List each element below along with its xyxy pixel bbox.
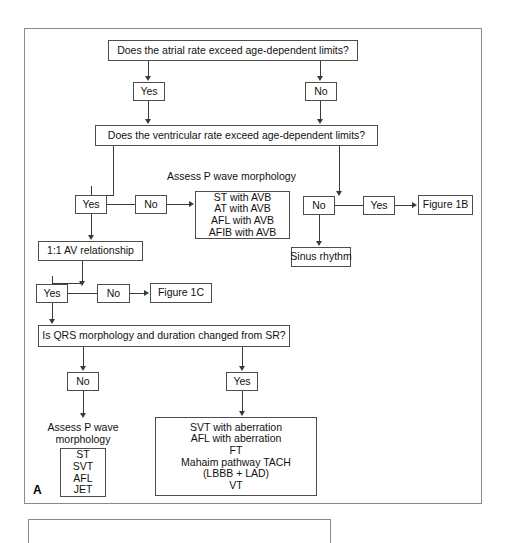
connector-right-no-to-sinus <box>319 215 320 242</box>
avb-list-item-3: AFIB with AVB <box>209 227 277 239</box>
node-qrs-question-label: Is QRS morphology and duration changed f… <box>42 330 285 342</box>
narrow-qrs-item-1: SVT <box>73 461 93 473</box>
node-qrs-yes: Yes <box>226 372 258 391</box>
arrowhead-qrs-yes-to-wide <box>239 411 245 416</box>
arrowhead-qrs-to-no <box>80 366 86 371</box>
node-ventricular-yes: Yes <box>75 195 107 214</box>
arrowhead-qrs-no-to-narrow <box>80 413 86 418</box>
connector-av-no-to-fig1c <box>130 293 145 294</box>
narrow-qrs-item-3: JET <box>74 484 93 496</box>
panel-letter-a: A <box>33 483 42 497</box>
connector-qrs-to-no <box>83 347 84 367</box>
node-figure-1c-label: Figure 1C <box>158 287 204 299</box>
connector-ventricular-right-stem <box>339 146 340 192</box>
connector-vent-yes-to-no <box>107 204 135 205</box>
caption-assess-p-wave-top: Assess P wave morphology <box>154 170 309 182</box>
node-qrs-no: No <box>67 372 99 391</box>
node-right-no-label: No <box>312 200 325 212</box>
node-av-yes-label: Yes <box>43 288 60 300</box>
node-atrial-yes: Yes <box>133 82 165 101</box>
caption-assess-p-wave-bottom-line1: Assess P wave <box>22 421 144 433</box>
connector-right-yes-to-fig1b <box>395 205 413 206</box>
connector-qrs-yes-to-wide <box>242 391 243 412</box>
node-narrow-qrs-list: ST SVT AFL JET <box>60 448 106 497</box>
node-qrs-question: Is QRS morphology and duration changed f… <box>38 325 290 347</box>
connector-no-to-ventricular <box>320 101 321 120</box>
wide-qrs-item-5: VT <box>229 480 242 492</box>
node-figure-1b: Figure 1B <box>418 195 473 215</box>
caption-assess-p-wave-bottom-line2: morphology <box>22 433 144 445</box>
connector-av-yes-to-no <box>68 293 98 294</box>
arrowhead-vent-no-to-avb <box>189 201 194 207</box>
figure-panel-b-partial <box>28 519 331 543</box>
node-atrial-rate-question-label: Does the atrial rate exceed age-dependen… <box>117 45 349 57</box>
connector-right-no-to-yes <box>335 205 363 206</box>
arrowhead-no-to-ventricular <box>317 119 323 124</box>
arrowhead-av-stem <box>79 281 85 286</box>
node-av-relationship: 1:1 AV relationship <box>38 241 143 261</box>
node-ventricular-rate-question-label: Does the ventricular rate exceed age-dep… <box>108 130 365 142</box>
node-figure-1b-label: Figure 1B <box>423 199 469 211</box>
connector-qrs-to-yes <box>242 347 243 367</box>
arrowhead-atrial-to-yes <box>145 76 151 81</box>
node-wide-qrs-list: SVT with aberration AFL with aberration … <box>155 417 317 496</box>
node-ventricular-no: No <box>135 195 167 214</box>
connector-qrs-no-to-narrow <box>83 391 84 414</box>
node-sinus-rhythm: Sinus rhythm <box>291 247 351 267</box>
arrowhead-atrial-to-no <box>317 76 323 81</box>
node-atrial-no: No <box>305 82 337 101</box>
wide-qrs-item-4: (LBBB + LAD) <box>203 468 269 480</box>
connector-atrial-to-no <box>320 61 321 77</box>
node-av-relationship-label: 1:1 AV relationship <box>47 245 134 257</box>
arrowhead-right-no-to-sinus <box>316 241 322 246</box>
node-ventricular-rate-question: Does the ventricular rate exceed age-dep… <box>95 125 378 146</box>
arrowhead-yes-to-ventricular <box>145 119 151 124</box>
connector-yes-to-ventricular <box>148 101 149 120</box>
avb-list-item-2: AFL with AVB <box>211 215 274 227</box>
connector-av-to-yes <box>52 276 53 284</box>
node-qrs-no-label: No <box>76 376 89 388</box>
arrowhead-yes-to-av-relationship <box>88 235 94 240</box>
node-right-no: No <box>303 196 335 215</box>
connector-atrial-to-yes <box>148 61 149 77</box>
node-avb-list: ST with AVB AT with AVB AFL with AVB AFI… <box>195 191 290 239</box>
arrowhead-av-no-to-fig1c <box>144 290 149 296</box>
connector-av-yes-to-qrs <box>52 303 53 320</box>
connector-vent-no-to-avb <box>167 204 190 205</box>
arrowhead-right-yes-to-fig1b <box>412 202 417 208</box>
node-ventricular-yes-label: Yes <box>82 199 99 211</box>
node-qrs-yes-label: Yes <box>233 376 250 388</box>
connector-yes-to-av-relationship <box>91 214 92 236</box>
node-sinus-rhythm-label: Sinus rhythm <box>290 251 351 263</box>
connector-av-stem <box>82 261 83 283</box>
node-atrial-yes-label: Yes <box>140 86 157 98</box>
arrowhead-av-yes-to-qrs <box>49 319 55 324</box>
node-ventricular-no-label: No <box>144 199 157 211</box>
node-figure-1c: Figure 1C <box>150 283 212 303</box>
node-atrial-no-label: No <box>314 86 327 98</box>
arrowhead-ventricular-right <box>336 191 342 196</box>
connector-ventricular-left-stem <box>113 146 114 195</box>
wide-qrs-item-2: FT <box>230 445 243 457</box>
node-right-yes-label: Yes <box>370 200 387 212</box>
arrowhead-qrs-to-yes <box>239 366 245 371</box>
node-av-no-label: No <box>107 288 120 300</box>
node-av-yes: Yes <box>36 284 68 303</box>
node-right-yes: Yes <box>363 196 395 215</box>
node-atrial-rate-question: Does the atrial rate exceed age-dependen… <box>108 40 358 61</box>
node-av-no: No <box>97 284 130 303</box>
